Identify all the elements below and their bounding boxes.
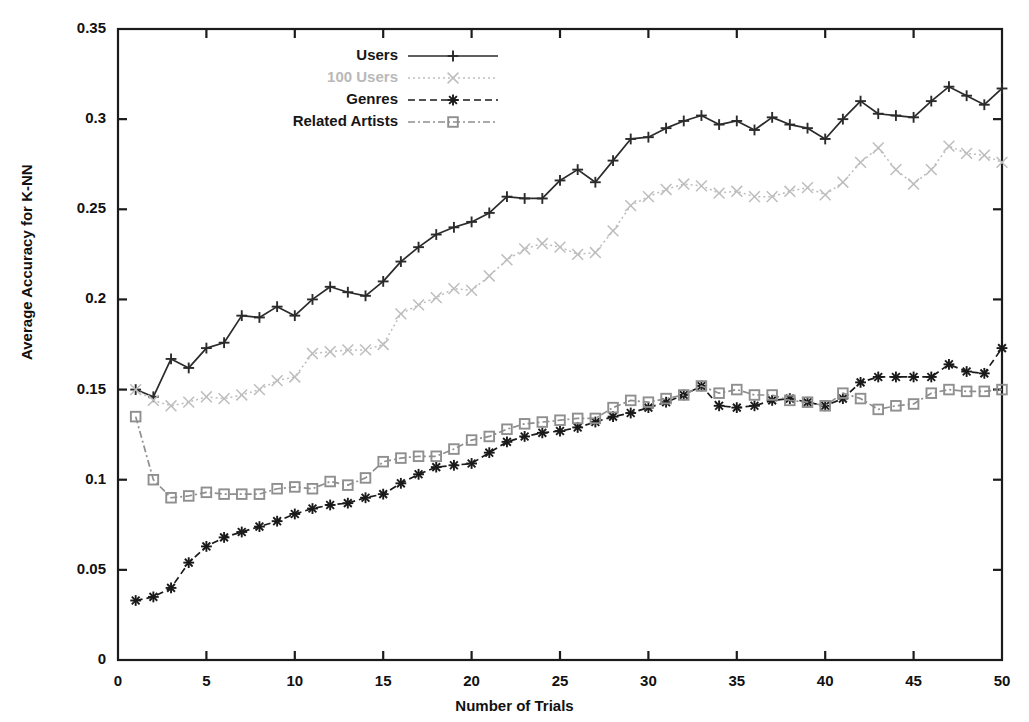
series-marker-100-users	[608, 226, 619, 237]
series-marker-genres	[979, 368, 990, 379]
series-marker-genres	[236, 527, 247, 538]
series-marker-100-users	[590, 247, 601, 258]
x-tick-label: 20	[432, 672, 512, 689]
series-marker-100-users	[413, 299, 424, 310]
series-marker-users	[643, 132, 654, 143]
series-marker-genres	[148, 592, 159, 603]
series-marker-100-users	[484, 271, 495, 282]
legend-label-genres: Genres	[346, 90, 398, 107]
series-marker-genres	[307, 503, 318, 514]
series-marker-users	[325, 281, 336, 292]
x-tick-label: 30	[608, 672, 688, 689]
series-marker-users	[236, 310, 247, 321]
series-marker-100-users	[201, 391, 212, 402]
series-marker-100-users	[908, 179, 919, 190]
series-marker-100-users	[272, 375, 283, 386]
series-marker-100-users	[555, 242, 566, 253]
series-marker-genres	[714, 400, 725, 411]
series-marker-100-users	[820, 189, 831, 200]
series-marker-users	[714, 119, 725, 130]
series-marker-genres	[342, 498, 353, 509]
series-marker-100-users	[519, 244, 530, 255]
series-marker-users	[731, 116, 742, 127]
series-marker-genres	[484, 447, 495, 458]
series-marker-100-users	[749, 191, 760, 202]
x-tick-label: 0	[78, 672, 158, 689]
y-tick-label: 0.05	[77, 560, 106, 577]
x-tick-label: 5	[166, 672, 246, 689]
series-marker-genres	[997, 343, 1008, 354]
series-marker-related-artists	[502, 424, 512, 434]
series-marker-100-users	[643, 191, 654, 202]
legend-sample-marker-users	[448, 51, 459, 62]
series-marker-genres	[431, 462, 442, 473]
series-marker-100-users	[784, 186, 795, 197]
series-marker-100-users	[378, 339, 389, 350]
legend-label-users: Users	[356, 46, 398, 63]
series-marker-genres	[661, 397, 672, 408]
series-marker-100-users	[891, 164, 902, 175]
series-marker-100-users	[502, 254, 513, 265]
legend-label-100-users: 100 Users	[327, 68, 398, 85]
series-marker-genres	[166, 582, 177, 593]
series-marker-genres	[891, 372, 902, 383]
x-tick-label: 40	[785, 672, 865, 689]
x-tick-label: 10	[255, 672, 335, 689]
series-marker-genres	[926, 372, 937, 383]
series-marker-users	[961, 90, 972, 101]
series-marker-genres	[272, 516, 283, 527]
series-marker-users	[891, 110, 902, 121]
series-marker-users	[749, 125, 760, 136]
y-tick-label: 0.15	[77, 380, 106, 397]
series-marker-genres	[289, 509, 300, 520]
series-marker-users	[219, 337, 230, 348]
series-marker-100-users	[926, 164, 937, 175]
series-marker-genres	[749, 400, 760, 411]
series-marker-genres	[413, 469, 424, 480]
series-marker-genres	[219, 532, 230, 543]
series-marker-100-users	[289, 372, 300, 383]
series-marker-users	[784, 119, 795, 130]
x-tick-label: 35	[697, 672, 777, 689]
series-marker-100-users	[537, 238, 548, 249]
x-tick-label: 25	[520, 672, 600, 689]
y-tick-label: 0.25	[77, 199, 106, 216]
series-marker-users	[449, 222, 460, 233]
series-marker-genres	[944, 359, 955, 370]
y-tick-label: 0	[98, 650, 106, 667]
series-marker-users	[873, 108, 884, 119]
series-marker-100-users	[873, 143, 884, 154]
series-marker-100-users	[466, 285, 477, 296]
series-marker-genres	[325, 500, 336, 511]
series-marker-100-users	[696, 180, 707, 191]
plot-frame	[118, 29, 1002, 660]
series-marker-genres	[537, 427, 548, 438]
series-marker-100-users	[714, 188, 725, 199]
series-marker-genres	[873, 372, 884, 383]
series-marker-users	[802, 123, 813, 134]
series-marker-100-users	[837, 177, 848, 188]
series-line-100-users	[136, 146, 1002, 406]
series-marker-users	[572, 164, 583, 175]
series-marker-genres	[908, 372, 919, 383]
x-tick-label: 15	[343, 672, 423, 689]
y-tick-label: 0.3	[85, 109, 106, 126]
series-marker-100-users	[395, 308, 406, 319]
series-line-related-artists	[136, 386, 1002, 498]
series-line-users	[136, 87, 1002, 397]
series-marker-genres	[360, 492, 371, 503]
series-marker-genres	[625, 408, 636, 419]
series-marker-users	[431, 229, 442, 240]
series-marker-100-users	[431, 292, 442, 303]
series-marker-genres	[130, 595, 141, 606]
series-marker-genres	[183, 557, 194, 568]
series-marker-100-users	[731, 186, 742, 197]
series-marker-related-artists	[608, 403, 618, 413]
series-marker-100-users	[254, 384, 265, 395]
series-marker-users	[661, 123, 672, 134]
series-marker-users	[678, 116, 689, 127]
series-line-genres	[136, 348, 1002, 600]
series-marker-genres	[555, 426, 566, 437]
series-marker-genres	[855, 377, 866, 388]
y-tick-label: 0.35	[77, 19, 106, 36]
